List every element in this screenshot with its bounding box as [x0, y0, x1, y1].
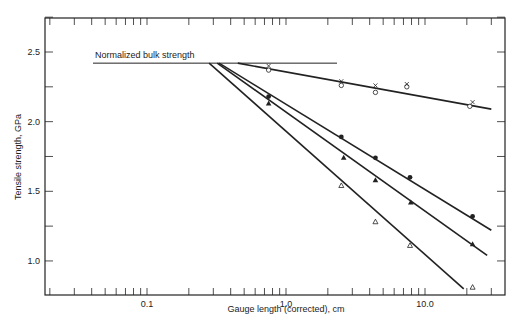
fit-line: [219, 63, 491, 230]
x-tick-label: 10.0: [416, 299, 434, 309]
open-circle-marker: [373, 90, 377, 94]
filled-circle-marker: [266, 94, 271, 99]
open-triangle-marker: [339, 183, 344, 188]
open-circle-marker: [339, 83, 343, 87]
y-tick-label: 1.0: [27, 256, 40, 266]
y-tick-label: 2.0: [27, 117, 40, 127]
fit-line: [238, 63, 492, 109]
fit-line: [217, 63, 487, 255]
filled-circle-marker: [470, 214, 475, 219]
filled-circle-marker: [373, 155, 378, 160]
y-tick-label: 1.5: [27, 186, 40, 196]
cross-marker: [471, 100, 475, 104]
x-tick-label: 0.1: [141, 299, 154, 309]
x-axis-title: Gauge length (corrected), cm: [227, 304, 344, 314]
filled-triangle-marker: [341, 155, 347, 160]
y-axis-title: Tensile strength, GPa: [13, 114, 23, 200]
y-tick-label: 2.5: [27, 47, 40, 57]
chart: 1.01.52.02.50.11.010.0 Normalized bulk s…: [0, 0, 518, 330]
cross-marker: [373, 83, 377, 87]
filled-circle-marker: [339, 135, 344, 140]
filled-circle-marker: [408, 175, 413, 180]
open-circle-marker: [266, 68, 270, 72]
tick-labels: 1.01.52.02.50.11.010.0: [27, 47, 433, 309]
open-triangle-marker: [470, 285, 475, 290]
open-triangle-marker: [373, 219, 378, 224]
annotation: Normalized bulk strength: [93, 50, 337, 63]
fit-lines: [209, 63, 491, 289]
cross-marker: [267, 64, 271, 68]
data-markers: [266, 64, 476, 289]
open-circle-marker: [468, 104, 472, 108]
bulk-strength-label: Normalized bulk strength: [95, 50, 195, 60]
